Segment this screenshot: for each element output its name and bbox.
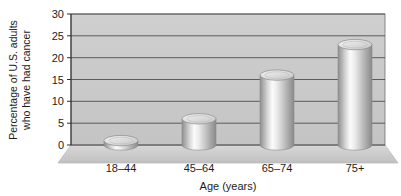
- x-tick-label-1: 45–64: [184, 162, 215, 174]
- bar-cylinder-3: [338, 39, 372, 150]
- y-axis-title-line2: who have had cancer: [20, 30, 32, 131]
- bar-cylinder-1: [182, 114, 216, 151]
- bar-cylinder-0: [104, 135, 138, 150]
- x-axis-title: Age (years): [200, 180, 257, 192]
- x-tick-labels: 18–44 45–64 65–74 75+: [106, 162, 365, 174]
- y-tick-label-0: 0: [58, 139, 64, 151]
- bar-cylinder-2: [260, 70, 294, 150]
- y-tick-marks: [67, 14, 71, 145]
- chart-canvas: 30 25 20 15 10 5 0 Percentage of U.S. ad…: [0, 0, 401, 196]
- y-tick-label-20: 20: [52, 52, 64, 64]
- bar-chart-figure: 30 25 20 15 10 5 0 Percentage of U.S. ad…: [0, 0, 401, 196]
- y-tick-label-30: 30: [52, 8, 64, 20]
- x-tick-label-0: 18–44: [106, 162, 137, 174]
- y-tick-label-15: 15: [52, 74, 64, 86]
- y-tick-label-5: 5: [58, 117, 64, 129]
- y-axis-title: Percentage of U.S. adults who have had c…: [7, 20, 32, 140]
- y-tick-labels: 30 25 20 15 10 5 0: [52, 8, 64, 151]
- x-tick-label-3: 75+: [346, 162, 365, 174]
- y-tick-label-25: 25: [52, 30, 64, 42]
- x-tick-label-2: 65–74: [262, 162, 293, 174]
- y-axis-title-line1: Percentage of U.S. adults: [7, 20, 19, 140]
- y-tick-label-10: 10: [52, 95, 64, 107]
